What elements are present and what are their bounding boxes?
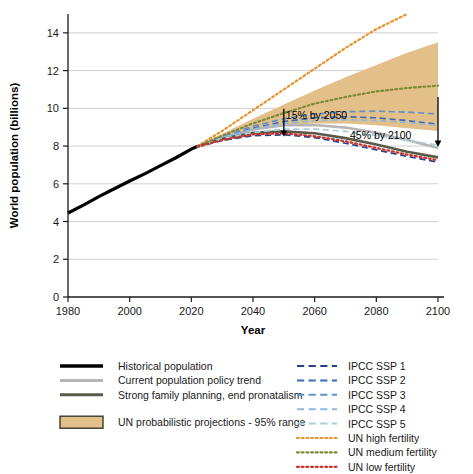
x-tick-label-2000: 2000 <box>117 305 141 317</box>
legend-label-ipcc-ssp-2: IPCC SSP 2 <box>348 374 406 386</box>
y-tick-label-8: 8 <box>53 140 59 152</box>
x-tick-label-2020: 2020 <box>179 305 203 317</box>
y-tick-label-6: 6 <box>53 178 59 190</box>
y-tick-label-14: 14 <box>47 27 59 39</box>
legend-label-current-population-policy-trend: Current population policy trend <box>118 374 261 386</box>
legend-label-ipcc-ssp-5: IPCC SSP 5 <box>348 418 406 430</box>
legend-label-un-low-fertility: UN low fertility <box>348 461 416 473</box>
x-tick-label-2100: 2100 <box>426 305 450 317</box>
legend-label-un-medium-fertility: UN medium fertility <box>348 446 437 458</box>
legend-label-ipcc-ssp-4: IPCC SSP 4 <box>348 403 406 415</box>
y-tick-label-4: 4 <box>53 216 59 228</box>
y-tick-label-0: 0 <box>53 291 59 303</box>
legend-label-strong-family-planning-end-pronatalism: Strong family planning, end pronatalism <box>118 389 303 401</box>
x-tick-label-2060: 2060 <box>302 305 326 317</box>
series-line-historical-population <box>68 146 198 213</box>
annotation-15-by-2050: 15% by 2050 <box>286 109 347 121</box>
legend-label-ipcc-ssp-1: IPCC SSP 1 <box>348 360 406 372</box>
x-tick-label-1980: 1980 <box>56 305 80 317</box>
legend-label-un-high-fertility: UN high fertility <box>348 432 420 444</box>
y-axis-title: World population (billions) <box>8 83 20 229</box>
x-tick-label-2040: 2040 <box>241 305 265 317</box>
legend-label-un-probabilistic-projections: UN probabilistic projections - 95% range <box>118 416 305 428</box>
legend-swatch-probabilistic-band <box>60 416 103 428</box>
y-tick-label-2: 2 <box>53 253 59 265</box>
y-tick-label-10: 10 <box>47 102 59 114</box>
x-tick-label-2080: 2080 <box>364 305 388 317</box>
world-population-projection-chart: 024681012141980200020202040206020802100Y… <box>0 0 473 474</box>
plot-axes <box>68 14 444 297</box>
chart-page: 024681012141980200020202040206020802100Y… <box>0 0 473 474</box>
x-axis-title: Year <box>241 324 266 336</box>
legend-label-historical-population: Historical population <box>118 360 213 372</box>
annotation-45-by-2100: 45% by 2100 <box>350 129 411 141</box>
y-tick-label-12: 12 <box>47 65 59 77</box>
chart-legend: Historical populationCurrent population … <box>60 360 437 473</box>
legend-label-ipcc-ssp-3: IPCC SSP 3 <box>348 389 406 401</box>
